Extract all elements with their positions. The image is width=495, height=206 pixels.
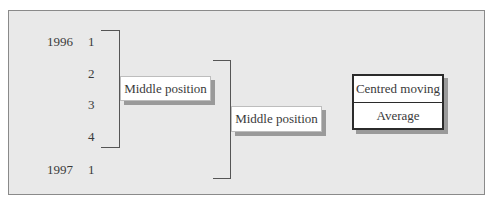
quarter-label: 1 xyxy=(88,35,95,49)
middle-position-box-1: Middle position xyxy=(120,76,211,101)
year-label-1997: 1997 xyxy=(47,163,73,177)
average-label: Average xyxy=(354,103,442,129)
year-label-1996: 1996 xyxy=(47,35,73,49)
centred-moving-average-box: Centred moving Average xyxy=(352,74,444,130)
quarter-label: 3 xyxy=(88,98,95,112)
quarter-label: 4 xyxy=(88,130,95,144)
bracket-first xyxy=(101,30,120,148)
bracket-second xyxy=(213,60,231,179)
middle-position-box-2: Middle position xyxy=(231,106,322,132)
quarter-label: 2 xyxy=(88,67,95,81)
centred-moving-label: Centred moving xyxy=(354,76,442,103)
quarter-label: 1 xyxy=(88,163,95,177)
